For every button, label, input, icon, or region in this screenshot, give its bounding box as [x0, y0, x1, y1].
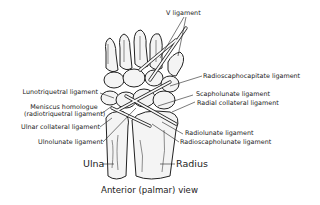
label-radioscaphocapitate-ligament: Radioscaphocapitate ligament — [203, 73, 300, 80]
label-scapholunate-ligament: Scapholunate ligament — [196, 91, 270, 98]
label-ulnolunate-ligament: Ulnolunate ligament — [38, 139, 103, 146]
capitate — [123, 69, 145, 87]
metacarpal-3 — [134, 30, 148, 68]
label-radius: Radius — [176, 159, 208, 169]
metacarpal-5 — [106, 38, 119, 72]
label-radioscapholunate-ligament: Radioscapholunate ligament — [180, 139, 271, 146]
metacarpal-4 — [120, 34, 133, 70]
label-meniscus-homologue: Meniscus homologue (radiotriquetral liga… — [24, 104, 104, 118]
label-lunotriquetral-ligament: Lunotriquetral ligament — [23, 89, 99, 96]
label-radiolunate-ligament: Radiolunate ligament — [185, 130, 253, 137]
label-radial-collateral-ligament: Radial collateral ligament — [197, 100, 279, 107]
label-v-ligament: V ligament — [166, 10, 201, 17]
scaphoid — [153, 91, 175, 109]
label-ulnar-collateral-ligament: Ulnar collateral ligament — [21, 124, 100, 131]
hamate — [104, 72, 124, 88]
metacarpal-1 — [168, 52, 184, 76]
label-ulna: Ulna — [83, 159, 104, 169]
label-meniscus-line2: (radiotriquetral ligament) — [24, 111, 104, 118]
diagram-caption: Anterior (palmar) view — [101, 185, 198, 195]
